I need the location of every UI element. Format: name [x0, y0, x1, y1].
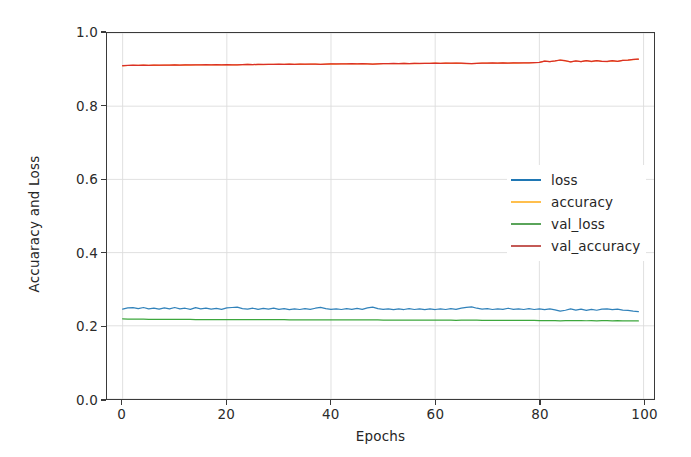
legend-color-swatch [511, 223, 541, 225]
legend-color-swatch [511, 245, 541, 247]
series-val_loss [123, 319, 639, 321]
x-tick-mark [330, 400, 331, 405]
y-tick-mark [101, 179, 106, 180]
y-tick-mark [101, 31, 106, 32]
y-tick-label: 0.0 [54, 393, 98, 407]
chart-legend: lossaccuracyval_lossval_accuracy [507, 165, 646, 261]
series-val_accuracy [123, 59, 639, 66]
y-tick-label: 0.4 [54, 246, 98, 260]
x-axis-tick-labels: 020406080100 [0, 407, 691, 427]
y-axis-tick-labels: 0.00.20.40.60.81.0 [48, 0, 98, 457]
x-tick-mark [644, 400, 645, 405]
y-tick-mark [101, 252, 106, 253]
legend-item-val_accuracy: val_accuracy [511, 235, 640, 257]
y-tick-label: 1.0 [54, 25, 98, 39]
legend-label: accuracy [551, 194, 613, 210]
y-tick-mark [101, 399, 106, 400]
x-axis-title: Epochs [106, 428, 655, 444]
legend-item-accuracy: accuracy [511, 191, 640, 213]
y-tick-mark [101, 326, 106, 327]
series-loss [123, 307, 639, 312]
legend-label: val_loss [551, 216, 605, 232]
x-tick-mark [226, 400, 227, 405]
x-tick-label: 80 [531, 407, 549, 422]
legend-item-val_loss: val_loss [511, 213, 640, 235]
x-tick-label: 20 [217, 407, 235, 422]
figure-canvas: 0.00.20.40.60.81.0 020406080100 Accuarac… [0, 0, 691, 457]
y-tick-label: 0.8 [54, 99, 98, 113]
legend-label: val_accuracy [551, 238, 640, 254]
legend-label: loss [551, 172, 578, 188]
x-tick-label: 0 [117, 407, 126, 422]
y-tick-label: 0.2 [54, 319, 98, 333]
y-tick-mark [101, 105, 106, 106]
y-axis-title: Accuaracy and Loss [26, 124, 42, 324]
x-tick-mark [539, 400, 540, 405]
x-tick-label: 100 [631, 407, 657, 422]
x-tick-mark [435, 400, 436, 405]
legend-color-swatch [511, 179, 541, 181]
legend-item-loss: loss [511, 169, 640, 191]
legend-color-swatch [511, 201, 541, 203]
y-tick-label: 0.6 [54, 172, 98, 186]
x-tick-label: 40 [322, 407, 340, 422]
x-tick-label: 60 [427, 407, 445, 422]
x-tick-mark [121, 400, 122, 405]
